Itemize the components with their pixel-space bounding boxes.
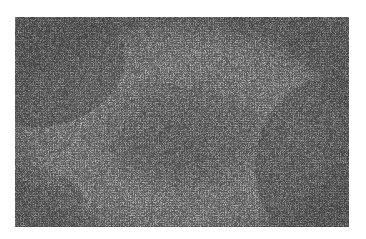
micrograph-image xyxy=(15,17,349,227)
tissue-texture xyxy=(15,17,349,227)
